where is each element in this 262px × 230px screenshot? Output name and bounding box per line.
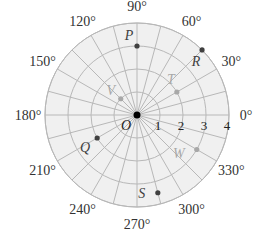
angle-label: 240° (69, 202, 96, 217)
angle-label: 270° (124, 217, 151, 230)
point-label-v: V (106, 83, 116, 98)
origin-point (134, 112, 141, 119)
point-w (194, 147, 199, 152)
point-label-r: R (191, 54, 201, 69)
point-s (155, 190, 160, 195)
point-label-t: T (167, 72, 176, 87)
angle-label: 210° (29, 163, 56, 178)
angle-label: 180° (15, 108, 42, 123)
angle-label: 330° (218, 163, 245, 178)
angle-label: 30° (222, 54, 242, 69)
point-q (95, 135, 100, 140)
angle-label: 150° (29, 54, 56, 69)
point-label-q: Q (80, 140, 90, 155)
polar-grid: 0°30°60°90°120°150°180°210°240°270°300°3… (0, 0, 262, 230)
angle-label: 300° (178, 202, 205, 217)
angle-label: 120° (69, 14, 96, 29)
point-label-w: W (173, 146, 186, 161)
point-r (199, 47, 204, 52)
point-p (134, 43, 139, 48)
angle-label: 60° (182, 14, 202, 29)
angle-label: 0° (240, 108, 253, 123)
radial-label: 3 (201, 118, 208, 133)
radial-label: 1 (155, 118, 162, 133)
point-t (174, 89, 179, 94)
radial-label: 2 (178, 118, 185, 133)
origin-label: O (121, 118, 131, 133)
radial-label: 4 (224, 118, 231, 133)
angle-label: 90° (127, 0, 147, 14)
point-label-s: S (138, 186, 145, 201)
point-label-p: P (124, 28, 134, 43)
point-v (118, 96, 123, 101)
polar-grid-diagram: 0°30°60°90°120°150°180°210°240°270°300°3… (0, 0, 262, 230)
